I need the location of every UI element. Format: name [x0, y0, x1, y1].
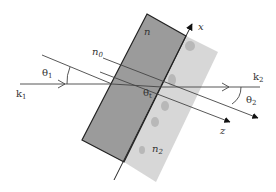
label-theta1: θ1	[42, 67, 53, 80]
label-theta2: θ2	[246, 94, 257, 107]
label-n0: n0	[92, 46, 103, 59]
reference-line	[42, 55, 112, 84]
label-x: x	[198, 21, 204, 32]
label-z: z	[219, 125, 226, 136]
theta1-arc	[67, 67, 70, 84]
theta2-arc	[232, 87, 241, 104]
label-k1: k1	[16, 88, 27, 101]
refraction-diagram: k1 θ1 n0 n x k2 θt θ2 z n2	[0, 0, 276, 192]
label-k2: k2	[253, 71, 264, 84]
label-n: n	[144, 26, 150, 37]
